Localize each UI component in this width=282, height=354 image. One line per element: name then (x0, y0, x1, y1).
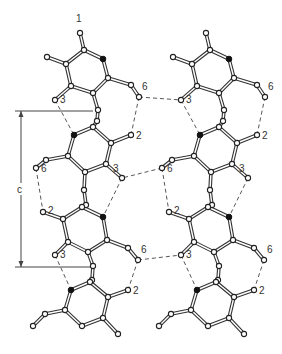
atom (100, 315, 105, 320)
bond-inner (82, 318, 103, 326)
atom (119, 175, 124, 180)
atom (135, 257, 140, 262)
atom-label-six: 6 (41, 163, 47, 174)
bond-inner (88, 240, 107, 252)
bond-inner (108, 290, 128, 297)
bond-inner (82, 207, 103, 217)
bond-inner (219, 78, 234, 93)
atom (95, 107, 100, 112)
atom (216, 263, 221, 268)
atom (30, 323, 35, 328)
bond-inner (194, 242, 214, 252)
nitrogen-atom (68, 287, 74, 293)
bond-inner (108, 78, 131, 85)
atom (178, 97, 183, 102)
axis-arrow-down-icon (19, 261, 24, 267)
atom (79, 323, 84, 328)
atom (261, 257, 266, 262)
atom (188, 307, 193, 312)
atom (103, 161, 108, 166)
atom (231, 75, 236, 80)
bond-inner (192, 50, 210, 64)
atom-label-two: 2 (133, 285, 139, 296)
atom-label-six: 6 (142, 81, 148, 92)
hydrogen-bond (55, 255, 71, 290)
bond-inner (63, 207, 82, 219)
atom-label-two: 2 (174, 205, 180, 216)
bond-inner (189, 207, 208, 219)
atom (159, 165, 164, 170)
atom (68, 83, 73, 88)
hydrogen-bond (162, 168, 169, 212)
atom (81, 47, 86, 52)
atom-label-two: 2 (48, 205, 54, 216)
atom (104, 237, 109, 242)
atom (65, 239, 70, 244)
bond-inner (234, 78, 257, 85)
bond-inner (197, 86, 219, 93)
atom (205, 204, 210, 209)
axis-label-c: c (17, 184, 22, 195)
bond-inner (219, 127, 237, 143)
atom (52, 252, 57, 257)
atom (94, 118, 99, 123)
atom (136, 94, 141, 99)
bond-inner (93, 78, 108, 93)
bond-inner (191, 310, 208, 326)
atom (40, 209, 45, 214)
axis-arrow-up-icon (19, 111, 24, 117)
nitrogen-atom (100, 214, 106, 220)
atom (65, 153, 70, 158)
atom (125, 287, 130, 292)
atom (254, 82, 259, 87)
atom (62, 307, 67, 312)
atom (254, 132, 259, 137)
atom (226, 315, 231, 320)
atom-label-three: 3 (113, 163, 119, 174)
atom (178, 252, 183, 257)
atom (245, 175, 250, 180)
atom (87, 279, 92, 284)
atom (251, 245, 256, 250)
bond-inner (66, 50, 84, 64)
atom-label-six: 6 (167, 163, 173, 174)
atom (234, 140, 239, 145)
bond-inner (85, 164, 106, 172)
atom (211, 249, 216, 254)
atom-label-two: 2 (136, 130, 142, 141)
nitrogen-atom (226, 56, 232, 62)
atom-label-six: 6 (141, 244, 147, 255)
atom (213, 279, 218, 284)
atom (33, 165, 38, 170)
atom (203, 30, 208, 35)
atom (207, 47, 212, 52)
atom (108, 140, 113, 145)
bond-inner (229, 318, 244, 334)
atom (168, 311, 173, 316)
atom (166, 209, 171, 214)
bond-inner (111, 135, 131, 143)
bond-inner (71, 86, 93, 93)
atom (79, 204, 84, 209)
atom (170, 54, 175, 59)
atom (191, 239, 196, 244)
atom (125, 245, 130, 250)
atom (186, 216, 191, 221)
hydrogen-bond (55, 100, 74, 135)
atom (231, 294, 236, 299)
hydrogen-bond (103, 178, 122, 217)
atom-label-six: 6 (267, 244, 273, 255)
atoms (30, 30, 267, 336)
hydrogen-bonds (36, 97, 265, 290)
atom (105, 294, 110, 299)
hydrogen-bond (139, 97, 181, 100)
nitrogen-atom (226, 214, 232, 220)
bond-inner (208, 207, 229, 217)
atom-label-three: 3 (186, 249, 192, 260)
hydrogen-bond (36, 168, 43, 212)
atom (194, 83, 199, 88)
atom (85, 249, 90, 254)
bond-inner (194, 156, 211, 172)
atom (169, 157, 174, 162)
bond-inner (211, 164, 232, 172)
